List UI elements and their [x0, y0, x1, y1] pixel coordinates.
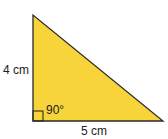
vertical-side-label: 4 cm	[3, 63, 29, 77]
angle-label: 90°	[46, 103, 64, 117]
horizontal-side-label: 5 cm	[81, 124, 107, 138]
